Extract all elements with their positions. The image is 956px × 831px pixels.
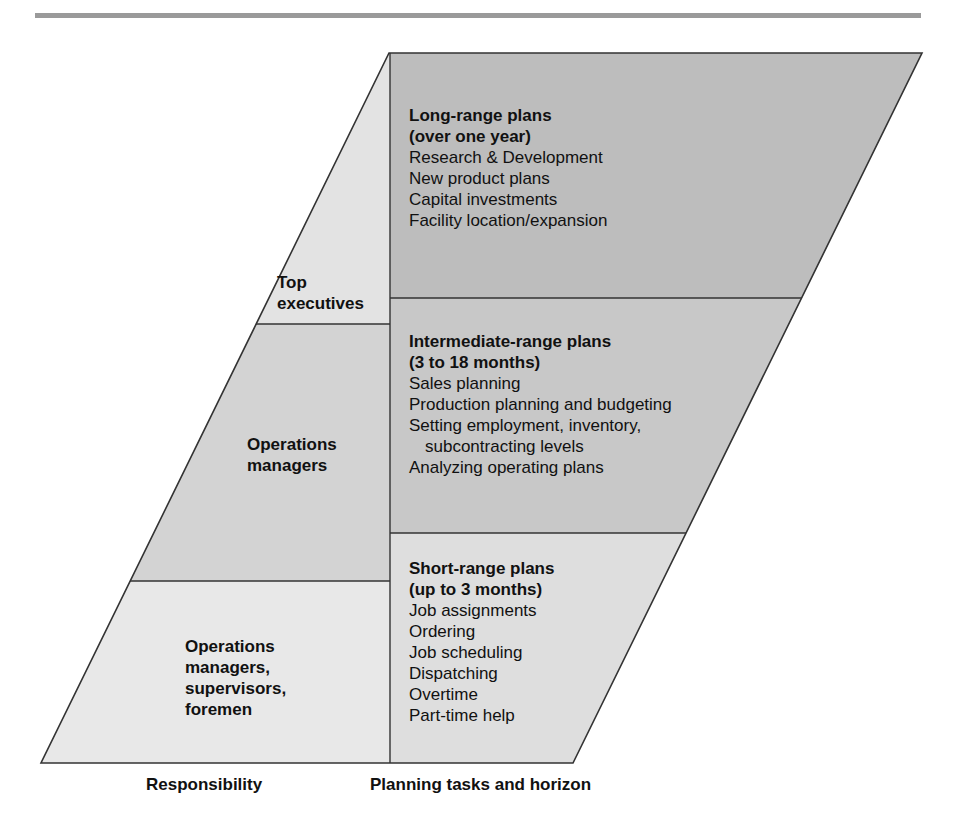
plan-item: Job scheduling bbox=[409, 642, 554, 663]
plan-item: Production planning and budgeting bbox=[409, 394, 672, 415]
label-line: managers, bbox=[185, 657, 286, 678]
plan-item: Sales planning bbox=[409, 373, 672, 394]
block-long-range: Long-range plans (over one year) Researc… bbox=[409, 105, 607, 231]
block-subtitle: (3 to 18 months) bbox=[409, 352, 672, 373]
block-title: Long-range plans bbox=[409, 105, 607, 126]
plan-item: Facility location/expansion bbox=[409, 210, 607, 231]
plan-item: Overtime bbox=[409, 684, 554, 705]
label-line: managers bbox=[247, 455, 337, 476]
plan-item: Dispatching bbox=[409, 663, 554, 684]
block-subtitle: (over one year) bbox=[409, 126, 607, 147]
label-line: Top bbox=[277, 272, 364, 293]
label-operations-managers: Operations managers bbox=[247, 434, 337, 476]
label-line: foremen bbox=[185, 699, 286, 720]
block-short-range: Short-range plans (up to 3 months) Job a… bbox=[409, 558, 554, 726]
label-top-executives: Top executives bbox=[277, 272, 364, 314]
label-line: executives bbox=[277, 293, 364, 314]
label-line: Operations bbox=[185, 636, 286, 657]
block-title: Intermediate-range plans bbox=[409, 331, 672, 352]
axis-label-planning: Planning tasks and horizon bbox=[370, 775, 591, 795]
plan-item: Research & Development bbox=[409, 147, 607, 168]
plan-item: subcontracting levels bbox=[409, 436, 672, 457]
label-line: Operations bbox=[247, 434, 337, 455]
plan-item: Capital investments bbox=[409, 189, 607, 210]
plan-item: New product plans bbox=[409, 168, 607, 189]
axis-label-responsibility: Responsibility bbox=[146, 775, 262, 795]
plan-item: Analyzing operating plans bbox=[409, 457, 672, 478]
block-title: Short-range plans bbox=[409, 558, 554, 579]
block-intermediate-range: Intermediate-range plans (3 to 18 months… bbox=[409, 331, 672, 478]
plan-item: Ordering bbox=[409, 621, 554, 642]
label-supervisors-foremen: Operations managers, supervisors, foreme… bbox=[185, 636, 286, 720]
plan-item: Part-time help bbox=[409, 705, 554, 726]
label-line: supervisors, bbox=[185, 678, 286, 699]
plan-item: Setting employment, inventory, bbox=[409, 415, 672, 436]
block-subtitle: (up to 3 months) bbox=[409, 579, 554, 600]
plan-item: Job assignments bbox=[409, 600, 554, 621]
